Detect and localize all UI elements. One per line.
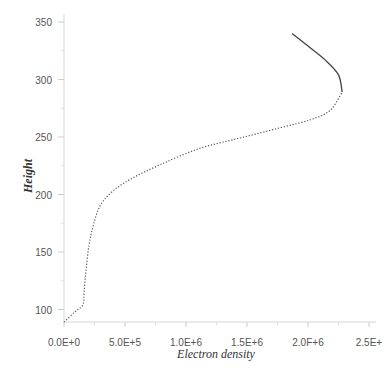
y-ticks: 100150200250300350 bbox=[35, 17, 64, 316]
bottomside-profile-line bbox=[64, 92, 342, 322]
y-tick-label: 100 bbox=[35, 305, 52, 316]
y-tick-label: 300 bbox=[35, 75, 52, 86]
y-tick-label: 200 bbox=[35, 190, 52, 201]
x-tick-label: 0.0E+0 bbox=[48, 337, 80, 348]
y-tick-label: 350 bbox=[35, 17, 52, 28]
electron-density-chart: 100150200250300350 0.0E+05.0E+51.0E+61.5… bbox=[0, 0, 392, 375]
x-tick-label: 5.0E+5 bbox=[109, 337, 141, 348]
x-tick-label: 2.0F+6 bbox=[292, 337, 324, 348]
topside-profile-line bbox=[292, 34, 342, 93]
y-axis-title: Height bbox=[21, 158, 35, 194]
x-axis-title: Electron density bbox=[176, 347, 256, 361]
y-tick-label: 250 bbox=[35, 132, 52, 143]
data-series bbox=[64, 34, 342, 323]
x-tick-label: 2.5E+ bbox=[356, 337, 383, 348]
axes bbox=[64, 14, 376, 322]
x-ticks: 0.0E+05.0E+51.0E+61.5E+62.0F+62.5E+ bbox=[48, 322, 382, 348]
y-tick-label: 150 bbox=[35, 247, 52, 258]
